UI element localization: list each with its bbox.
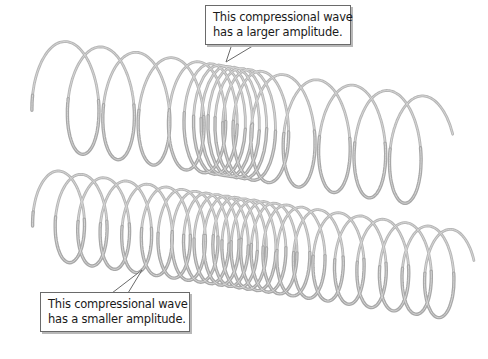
callout-line-2: has a smaller amplitude.	[48, 312, 182, 327]
callout-line-1: This compressional wave	[213, 10, 343, 25]
smaller-amplitude-callout: This compressional wave has a smaller am…	[40, 292, 190, 332]
bottom-callout-pointer	[112, 270, 142, 293]
larger-amplitude-callout: This compressional wave has a larger amp…	[205, 5, 351, 45]
top-callout-pointer	[226, 44, 256, 62]
callout-line-2: has a larger amplitude.	[213, 25, 343, 40]
callout-line-1: This compressional wave	[48, 297, 182, 312]
